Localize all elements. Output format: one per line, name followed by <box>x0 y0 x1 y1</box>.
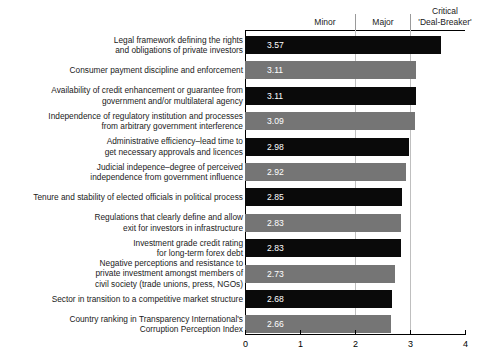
category-label: Country ranking in Transparency Internat… <box>69 314 243 335</box>
bar: 2.83 <box>245 214 401 232</box>
x-axis-tick-label: 0 <box>243 339 248 349</box>
bar: 2.92 <box>245 163 406 181</box>
category-label: Tenure and stability of elected official… <box>33 192 243 202</box>
x-axis-tick <box>355 330 356 335</box>
category-label: Sector in transition to a competitive ma… <box>52 294 243 304</box>
bar: 2.85 <box>245 188 402 206</box>
category-label: Negative perceptions and resistance to p… <box>95 258 243 289</box>
x-axis-tick-label: 1 <box>298 339 303 349</box>
bar-value-label: 3.11 <box>267 87 283 105</box>
bar: 2.98 <box>245 138 409 156</box>
x-axis-tick <box>300 330 301 335</box>
bar-chart: Minor Major Critical 'Deal-Breaker' Lega… <box>0 0 481 360</box>
bar: 2.66 <box>245 315 391 333</box>
category-label: Legal framework defining the rights and … <box>114 35 243 56</box>
bar: 2.83 <box>245 239 401 257</box>
bar-value-label: 2.98 <box>267 138 284 156</box>
category-label-column: Legal framework defining the rights and … <box>0 0 243 360</box>
bar: 3.57 <box>245 36 441 54</box>
category-label: Judicial indepence–degree of perceived i… <box>90 162 243 183</box>
bar: 3.11 <box>245 61 416 79</box>
bar: 2.68 <box>245 290 392 308</box>
category-label: Availability of credit enhancement or gu… <box>51 85 243 106</box>
x-axis-tick <box>245 330 246 335</box>
bar-value-label: 2.68 <box>267 290 284 308</box>
bar-value-label: 2.83 <box>267 214 284 232</box>
x-axis-tick-label: 3 <box>408 339 413 349</box>
x-axis-tick <box>410 330 411 335</box>
bar-value-label: 2.83 <box>267 239 284 257</box>
x-axis-tick-label: 2 <box>353 339 358 349</box>
bar-value-label: 2.66 <box>267 315 284 333</box>
bar: 2.73 <box>245 265 395 283</box>
bar-value-label: 3.09 <box>267 112 284 130</box>
category-label: Investment grade credit rating for long-… <box>133 238 243 259</box>
category-label: Administrative efficiency–lead time to g… <box>105 136 243 157</box>
x-axis-tick <box>465 330 466 335</box>
category-label: Independence of regulatory institution a… <box>48 111 243 132</box>
bar-value-label: 2.73 <box>267 265 284 283</box>
bar-value-label: 3.57 <box>267 36 284 54</box>
band-label-critical: Critical 'Deal-Breaker' <box>409 6 481 27</box>
category-label: Regulations that clearly define and allo… <box>94 212 243 233</box>
x-axis-tick-label: 4 <box>463 339 468 349</box>
category-label: Consumer payment discipline and enforcem… <box>70 65 243 75</box>
bar-value-label: 2.85 <box>267 188 284 206</box>
bar: 3.09 <box>245 112 415 130</box>
bar: 3.11 <box>245 87 416 105</box>
band-label-major: Major <box>357 17 409 28</box>
bar-value-label: 2.92 <box>267 163 284 181</box>
bar-value-label: 3.11 <box>267 61 283 79</box>
